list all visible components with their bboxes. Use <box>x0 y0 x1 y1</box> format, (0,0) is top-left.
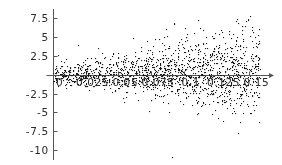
x-axis-tick-label: 0 <box>56 77 63 88</box>
y-axis-tick-label: -10 <box>30 145 49 156</box>
x-axis-tick-label: 0.1 <box>182 77 201 88</box>
x-axis-tick-label: 0.15 <box>243 77 269 88</box>
y-axis-tick-label: 5 <box>41 32 48 43</box>
y-axis-tick-label: 2.5 <box>30 51 49 62</box>
y-axis-tick-label: -5 <box>37 107 49 118</box>
scatter-plot-figure: 7.552.5-2.5-5-7.5-1000.0250.050.0750.10.… <box>0 0 282 165</box>
x-axis-tick-label: 0.075 <box>142 77 175 88</box>
y-axis-tick-label: -2.5 <box>26 88 49 99</box>
y-axis-tick-label: 7.5 <box>30 13 49 24</box>
x-axis-tick-label: 0.05 <box>112 77 138 88</box>
x-axis-tick-label: 0.025 <box>76 77 109 88</box>
y-axis-tick-label: -7.5 <box>26 126 49 137</box>
x-axis-tick-label: 0.125 <box>207 77 240 88</box>
